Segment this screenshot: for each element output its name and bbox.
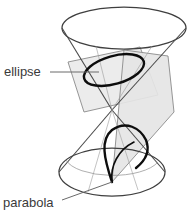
label-parabola: parabola bbox=[3, 182, 112, 210]
ellipse-label-text: ellipse bbox=[4, 64, 41, 79]
lower-cone-generator-a bbox=[88, 110, 112, 192]
diagram-canvas: ellipse parabola bbox=[0, 0, 191, 222]
upper-cone-rim bbox=[62, 7, 186, 49]
parabola-label-text: parabola bbox=[3, 195, 54, 210]
conic-sections-figure: ellipse parabola bbox=[0, 0, 191, 222]
parabola-leader-line bbox=[62, 182, 112, 200]
